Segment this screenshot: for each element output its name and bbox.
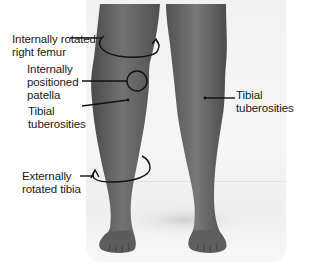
tibia-arrowhead — [91, 170, 99, 178]
left-foot — [188, 230, 226, 253]
right-foot — [99, 230, 136, 253]
label-tibia-line2: rotated tibia — [22, 183, 81, 196]
label-tibia-line1: Externally — [22, 170, 81, 183]
label-tibial-right-line1: Tibial — [236, 89, 294, 102]
label-tibial-left-line1: Tibial — [28, 105, 86, 118]
label-tibial-right: Tibial tuberosities — [236, 89, 294, 115]
label-tibial-left-line2: tuberosities — [28, 118, 86, 131]
floor-shadow — [115, 202, 255, 238]
label-femur: Internally rotated right femur — [12, 33, 96, 59]
label-femur-line2: right femur — [12, 46, 96, 59]
tibial-right-dot — [204, 97, 207, 100]
figure-canvas: Internally rotated right femur Internall… — [0, 0, 312, 274]
label-patella-line1: Internally — [27, 63, 78, 76]
label-tibial-right-line2: tuberosities — [236, 102, 294, 115]
label-patella-line3: patella — [27, 89, 78, 102]
label-patella: Internally positioned patella — [27, 63, 78, 102]
tibial-left-dot — [127, 99, 130, 102]
label-patella-line2: positioned — [27, 76, 78, 89]
label-tibia: Externally rotated tibia — [22, 170, 81, 196]
label-tibial-left: Tibial tuberosities — [28, 105, 86, 131]
label-femur-line1: Internally rotated — [12, 33, 96, 46]
